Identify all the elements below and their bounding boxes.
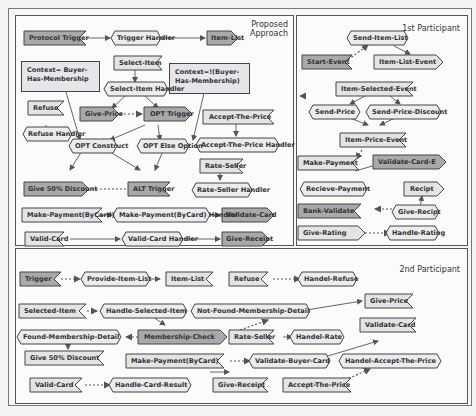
node-provide-item-list[interactable]: Provide-Item-List <box>83 272 155 286</box>
node-give-rating[interactable]: Give-Rating <box>299 226 351 240</box>
node-accept-the-price[interactable]: Accept-The-Price <box>205 110 275 124</box>
node-selected-item[interactable]: Selected-Item <box>20 304 80 318</box>
node-trigger[interactable]: Trigger <box>21 272 55 286</box>
node-valid-card-2nd[interactable]: Valid-Card <box>31 378 77 392</box>
node-give-price[interactable]: Give-Price <box>81 107 127 121</box>
node-send-price-discount[interactable]: Send-Price-Discount <box>368 105 451 119</box>
node-handel-refuse[interactable]: Handel-Refuse <box>300 272 362 286</box>
node-not-found-membership-detail[interactable]: Not-Found-Membership-Detail <box>193 304 313 318</box>
node-give-price-2nd[interactable]: Give-Price <box>366 294 412 308</box>
node-refuse[interactable]: Refuse <box>29 101 63 115</box>
node-handel-rate[interactable]: Handel-Rate <box>292 330 346 344</box>
node-make-payment-1st[interactable]: Make-Payment <box>299 156 362 170</box>
node-item-selected-event[interactable]: Item-Selected-Event <box>337 82 421 96</box>
node-validate-buyer-card[interactable]: Validate-Buyer-Card <box>251 354 334 368</box>
node-bank-validate[interactable]: Bank-Validate <box>299 204 358 218</box>
node-handle-card-result[interactable]: Handle-Card-Result <box>111 378 191 392</box>
node-validate-card-e[interactable]: Validate-Card-E <box>374 155 440 169</box>
node-item-list-2nd[interactable]: Item-List <box>167 272 208 286</box>
node-protocol-trigger[interactable]: Protocol Trigger <box>25 31 93 45</box>
node-alt-trigger[interactable]: ALT Trigger <box>129 182 178 196</box>
node-make-payment-2nd[interactable]: Make-Payment(ByCard) <box>127 354 222 368</box>
node-make-payment[interactable]: Make-Payment(ByCard) <box>23 208 118 222</box>
node-recipt[interactable]: Recipt <box>406 182 438 196</box>
node-handle-selected-item[interactable]: Handle-Selected-Item <box>102 304 191 318</box>
node-item-list-event[interactable]: Item-List-Event <box>375 55 440 69</box>
node-give-50-discount-2nd[interactable]: Give 50% Discount <box>26 351 103 365</box>
node-recieve-payment[interactable]: Recieve-Payment <box>302 182 374 196</box>
node-trigger-handler[interactable]: Trigger Handler <box>113 31 179 45</box>
node-opt-else-option[interactable]: OPT Else Option <box>139 139 207 153</box>
node-accept-the-price-2nd[interactable]: Accept-The-Price <box>284 378 354 392</box>
node-rate-seller-handler[interactable]: Rate-Seller Handler <box>193 183 274 197</box>
node-item-price-event[interactable]: Item-Price-Event <box>341 133 411 147</box>
node-refuse-2nd[interactable]: Refuse <box>230 272 264 286</box>
node-send-price[interactable]: Send-Price <box>311 105 359 119</box>
node-rate-seller-2nd[interactable]: Rate-Seller <box>230 330 279 344</box>
node-handel-accept-the-price[interactable]: Handel-Accept-The-Price <box>341 354 440 368</box>
node-opt-construct[interactable]: OPT Construct <box>71 139 132 153</box>
node-handle-rating[interactable]: Handle-Rating <box>388 226 449 240</box>
node-give-receipt-2nd[interactable]: Give-Receipt <box>214 378 269 392</box>
node-select-item-handler[interactable]: Select-Item Handler <box>106 82 188 96</box>
node-rate-seller[interactable]: Rate-Seller <box>201 159 250 173</box>
node-item-list[interactable]: Item-List <box>207 31 248 45</box>
node-opt-trigger[interactable]: OPT Trigger <box>146 107 198 121</box>
node-valid-card-handler[interactable]: Valid-Card Handler <box>124 232 202 246</box>
node-validate-card-2nd[interactable]: Validate-Card <box>361 318 420 332</box>
context-buyer-has-membership: Context= Buyer-Has-Membership <box>21 61 100 92</box>
node-select-item[interactable]: Select-Item <box>115 56 166 70</box>
node-start-event[interactable]: Start-Event <box>303 55 354 69</box>
node-give-50-discount[interactable]: Give 50% Discount <box>24 182 101 196</box>
node-validate-card[interactable]: Validate-Card <box>222 208 281 222</box>
node-membership-check[interactable]: Membership-Check <box>140 330 219 344</box>
node-give-receipt[interactable]: Give-Receipt <box>222 232 277 246</box>
node-valid-card[interactable]: Valid-Card <box>26 232 72 246</box>
node-give-recipt[interactable]: Give-Recipt <box>394 205 445 219</box>
node-accept-the-price-handler[interactable]: Accept-The-Price Handler <box>197 138 299 152</box>
node-send-item-list[interactable]: Send-Item-List <box>349 31 412 45</box>
node-found-membership-detail[interactable]: Found-Membership-Detail <box>19 330 123 344</box>
